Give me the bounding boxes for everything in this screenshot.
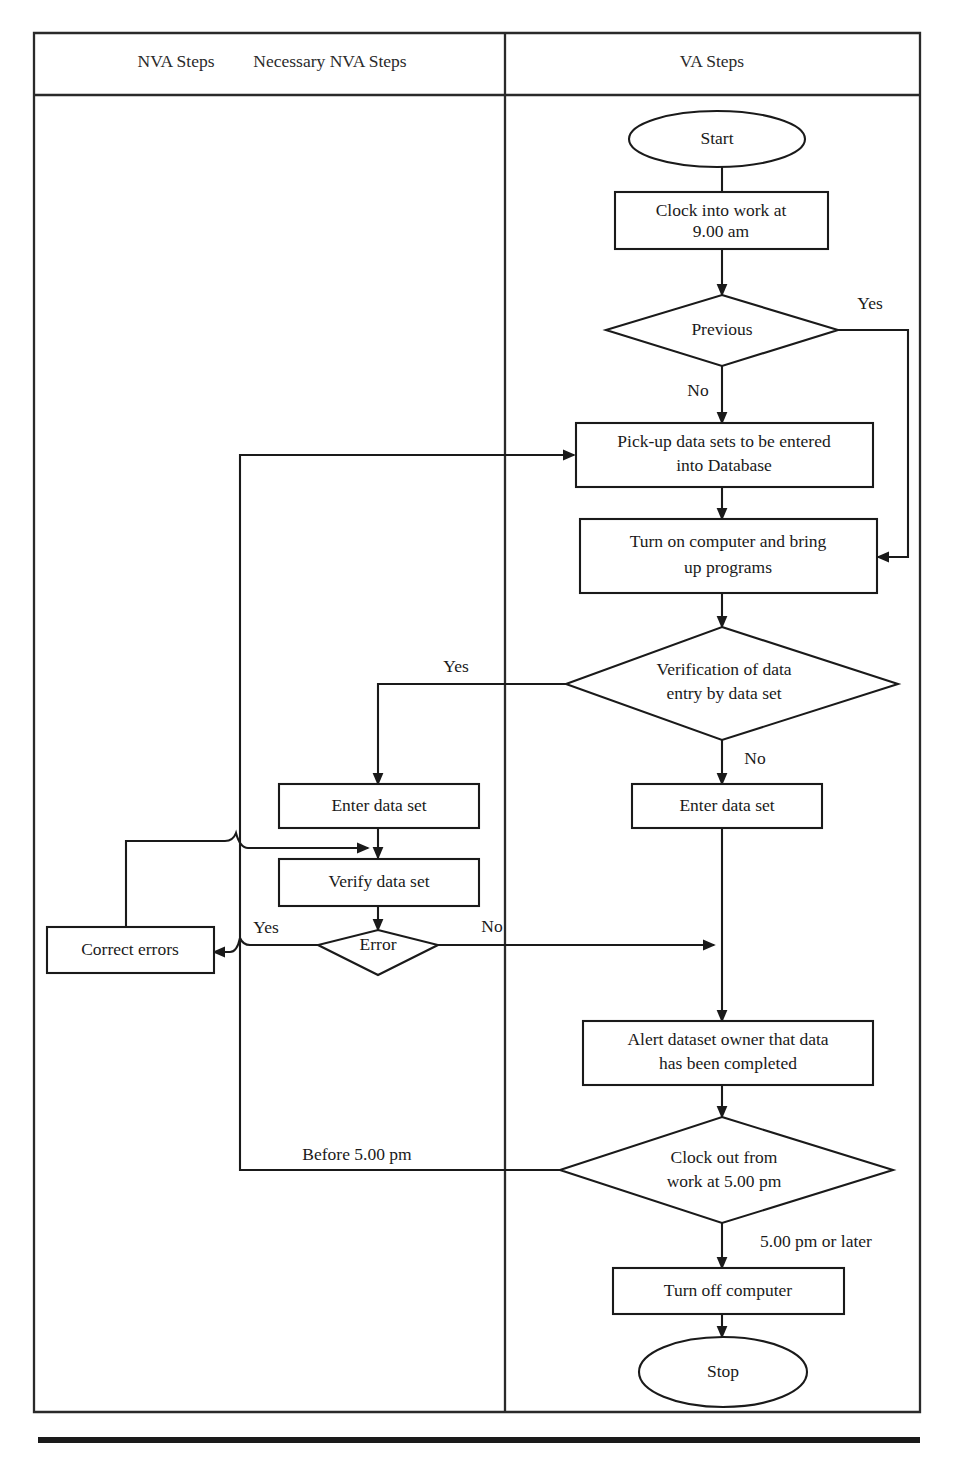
node-clock-in-line1: Clock into work at [656, 200, 787, 220]
node-clock-in: Clock into work at 9.00 am [615, 192, 828, 249]
node-error: Error [318, 930, 438, 975]
column-header-nva-a: NVA Steps [138, 51, 215, 71]
node-turn-on: Turn on computer and bring up programs [580, 519, 877, 593]
edge-label-previous-yes: Yes [857, 293, 883, 313]
edge-label-previous-no: No [687, 380, 709, 400]
node-clock-out: Clock out from work at 5.00 pm [560, 1117, 893, 1223]
node-previous: Previous [606, 295, 838, 366]
edge-verification-yes [378, 684, 566, 784]
node-alert-owner-line2: has been completed [659, 1053, 797, 1073]
node-start: Start [629, 111, 805, 167]
node-verify-data-set-label: Verify data set [328, 871, 429, 891]
node-verification: Verification of data entry by data set [566, 627, 898, 740]
edge-label-clockout-before: Before 5.00 pm [302, 1144, 412, 1164]
node-enter-data-set-va-label: Enter data set [679, 795, 774, 815]
node-verify-data-set: Verify data set [279, 859, 479, 906]
node-clock-out-line1: Clock out from [671, 1147, 778, 1167]
node-enter-data-set-va: Enter data set [632, 784, 822, 828]
node-correct-errors-label: Correct errors [81, 939, 179, 959]
column-header-nva-b: Necessary NVA Steps [253, 51, 406, 71]
flowchart-page: NVA Steps Necessary NVA Steps VA Steps [0, 0, 955, 1458]
node-clock-in-line2: 9.00 am [693, 221, 750, 241]
node-verification-line1: Verification of data [656, 659, 791, 679]
node-stop: Stop [639, 1337, 807, 1407]
node-stop-label: Stop [707, 1361, 739, 1381]
edge-error-yes [214, 938, 318, 952]
node-turn-off: Turn off computer [613, 1268, 844, 1314]
node-previous-label: Previous [691, 319, 752, 339]
node-pickup: Pick-up data sets to be entered into Dat… [576, 423, 873, 487]
edge-label-clockout-after: 5.00 pm or later [760, 1231, 872, 1251]
node-alert-owner-line1: Alert dataset owner that data [627, 1029, 828, 1049]
bottom-rule [38, 1437, 920, 1443]
edge-label-error-yes: Yes [253, 917, 279, 937]
edge-label-verification-no: No [744, 748, 766, 768]
node-enter-data-set-nva: Enter data set [279, 784, 479, 828]
node-turn-off-label: Turn off computer [664, 1280, 793, 1300]
node-enter-data-set-nva-label: Enter data set [331, 795, 426, 815]
flowchart-canvas: NVA Steps Necessary NVA Steps VA Steps [0, 0, 955, 1458]
edge-label-verification-yes: Yes [443, 656, 469, 676]
node-correct-errors: Correct errors [47, 927, 214, 973]
node-error-label: Error [360, 934, 397, 954]
node-turn-on-line1: Turn on computer and bring [630, 531, 827, 551]
node-verification-line2: entry by data set [666, 683, 781, 703]
node-clock-out-line2: work at 5.00 pm [667, 1171, 782, 1191]
edge-label-error-no: No [481, 916, 503, 936]
node-turn-on-line2: up programs [684, 557, 772, 577]
node-start-label: Start [700, 128, 733, 148]
node-pickup-line2: into Database [676, 455, 772, 475]
node-alert-owner: Alert dataset owner that data has been c… [583, 1021, 873, 1085]
column-header-va: VA Steps [680, 51, 745, 71]
node-pickup-line1: Pick-up data sets to be entered [617, 431, 831, 451]
